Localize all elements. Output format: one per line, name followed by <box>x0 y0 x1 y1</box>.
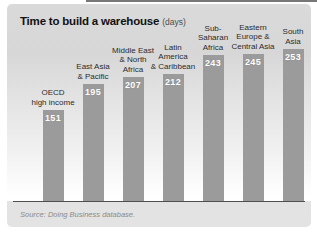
bar: 243 <box>203 55 224 201</box>
category-label: OECDhigh income <box>31 88 74 107</box>
bar-value-label: 195 <box>85 87 101 97</box>
bar-value-label: 245 <box>245 57 261 67</box>
bar-column: LatinAmerica& Caribbean212 <box>153 22 193 201</box>
bar: 245 <box>243 54 264 201</box>
bar: 195 <box>83 84 104 201</box>
category-label: EasternEurope &Central Asia <box>231 23 274 52</box>
bar-column: SouthAsia253 <box>273 22 311 201</box>
bar-column: OECDhigh income151 <box>33 22 73 201</box>
bar: 253 <box>283 49 304 201</box>
bar-value-label: 243 <box>205 58 221 68</box>
source-note: Source: Doing Business database. <box>20 210 135 219</box>
bar-column: Sub-SaharanAfrica243 <box>193 22 233 201</box>
x-axis-baseline <box>13 201 305 202</box>
category-label: East Asia& Pacific <box>76 62 109 81</box>
category-label: Sub-SaharanAfrica <box>198 24 228 53</box>
bar-value-label: 151 <box>45 113 61 123</box>
bars-row: OECDhigh income151East Asia& Pacific195M… <box>33 22 311 201</box>
bar: 207 <box>123 77 144 201</box>
bar-value-label: 207 <box>125 80 141 90</box>
category-label: Middle East& NorthAfrica <box>112 46 154 75</box>
category-label: LatinAmerica& Caribbean <box>151 43 195 72</box>
category-label: SouthAsia <box>283 27 304 46</box>
bar: 212 <box>163 74 184 201</box>
bar-value-label: 212 <box>165 77 181 87</box>
bar-column: EasternEurope &Central Asia245 <box>233 22 273 201</box>
bar-value-label: 253 <box>285 52 301 62</box>
chart-card: Time to build a warehouse(days) OECDhigh… <box>7 4 311 227</box>
bar-column: Middle East& NorthAfrica207 <box>113 22 153 201</box>
bar: 151 <box>43 110 64 201</box>
scan-crop-artifact <box>86 0 317 2</box>
bar-column: East Asia& Pacific195 <box>73 22 113 201</box>
